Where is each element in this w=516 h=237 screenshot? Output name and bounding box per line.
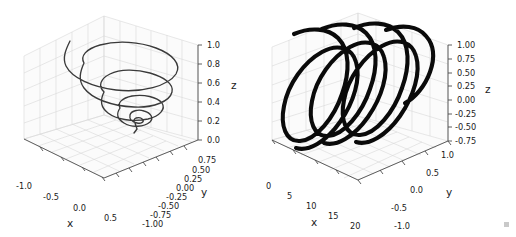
z-tick-label: 0.50 — [457, 68, 475, 78]
x-tick-label: 5 — [287, 191, 292, 201]
z-tick-label: 0.8 — [207, 59, 220, 69]
y-tick-label: 0.0 — [410, 185, 423, 195]
x-tick-label: 0.0 — [73, 203, 86, 213]
corner-artifact — [504, 222, 509, 227]
x-tick-label: -1.0 — [16, 181, 32, 191]
x-axis-label: x — [67, 217, 73, 229]
y-tick-label: 0.5 — [426, 168, 439, 178]
figure-canvas: 1.0 0.8 0.6 0.4 0.2 0.0 z -1.0 -0.5 0.0 … — [0, 0, 516, 237]
z-tick-label: -0.75 — [455, 136, 476, 146]
x-tick-label: 15 — [328, 211, 338, 221]
conical-spiral-plot: 1.0 0.8 0.6 0.4 0.2 0.0 z -1.0 -0.5 0.0 … — [0, 0, 258, 237]
helix-plot: 1.00 0.75 0.50 0.25 0.00 -0.25 -0.50 -0.… — [258, 0, 516, 237]
x-tick-label: 0.5 — [104, 213, 117, 223]
x-tick-label: 10 — [306, 201, 316, 211]
z-axis-label: z — [485, 83, 491, 95]
z-tick-label: -0.50 — [455, 122, 476, 132]
y-tick-label: -0.5 — [391, 203, 407, 213]
z-tick-label: 0.4 — [207, 97, 220, 107]
x-tick-label: 0 — [266, 181, 271, 191]
z-tick-label: 0.75 — [457, 54, 475, 64]
x-tick-label: 20 — [350, 221, 360, 231]
x-tick-label: -0.5 — [43, 192, 59, 202]
y-tick-label: -1.00 — [142, 219, 163, 229]
y-tick-label: 0.75 — [198, 155, 216, 165]
y-tick-label: 1.0 — [441, 150, 454, 160]
y-tick-label: -1.0 — [394, 221, 410, 231]
z-axis-left: 1.0 0.8 0.6 0.4 0.2 0.0 z — [198, 40, 237, 145]
pane-group-right — [272, 13, 448, 180]
z-axis-label: z — [231, 79, 237, 91]
z-axis-right: 1.00 0.75 0.50 0.25 0.00 -0.25 -0.50 -0.… — [448, 40, 491, 146]
z-tick-label: 0.6 — [207, 78, 220, 88]
z-tick-label: 0.00 — [457, 95, 475, 105]
y-axis-label: y — [201, 186, 207, 198]
z-tick-label: 1.0 — [207, 40, 220, 50]
x-axis-label: x — [311, 216, 317, 228]
z-tick-label: -0.25 — [455, 109, 476, 119]
z-tick-label: 1.00 — [457, 40, 475, 50]
y-axis-label: y — [446, 186, 452, 198]
z-tick-label: 0.0 — [207, 135, 220, 145]
z-tick-label: 0.25 — [457, 81, 475, 91]
z-tick-label: 0.2 — [207, 116, 220, 126]
